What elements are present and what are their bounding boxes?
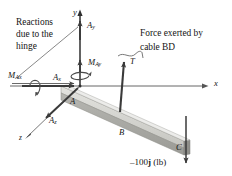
load-label: –100j (lb)	[130, 157, 166, 167]
vector-label-Ax-sub: x	[58, 76, 61, 82]
vector-label-MAx: MAx	[8, 71, 22, 81]
vector-label-Az: Az	[49, 116, 57, 126]
hinge-note-line1: Reactions	[16, 17, 53, 28]
vector-label-Ax: Ax	[53, 73, 61, 83]
hinge-note-line2: due to the	[16, 29, 53, 40]
cable-note-line1: Force exerted by	[140, 28, 203, 39]
cable-note-line2: cable BD	[140, 42, 175, 53]
vector-label-Az-sub: z	[54, 119, 56, 125]
axis-label-z: z	[19, 134, 22, 142]
axis-y	[77, 10, 82, 87]
vector-label-MAx-sub: Ax	[15, 74, 21, 80]
point-label-B: B	[119, 128, 124, 138]
vector-label-Ay-sub: y	[92, 24, 95, 30]
vector-label-T: T	[130, 57, 135, 67]
vector-label-MAy-sub: Ay	[95, 61, 101, 67]
load-units: (lb)	[153, 157, 166, 167]
point-A-marker	[79, 85, 82, 88]
load-magnitude: –100	[130, 157, 148, 167]
axis-label-x: x	[214, 79, 218, 89]
free-body-diagram-figure: Reactions due to the hinge Force exerted…	[0, 0, 232, 176]
point-label-A: A	[70, 97, 75, 107]
vector-T-arrow	[120, 62, 124, 112]
beam-body	[61, 85, 190, 155]
axis-label-y: y	[73, 8, 77, 18]
vector-label-MAy: MAy	[88, 58, 101, 68]
hinge-note-line3: hinge	[16, 41, 37, 52]
vector-label-Ay: Ay	[87, 21, 95, 31]
point-label-C: C	[176, 143, 182, 153]
cable-note-line2-text: cable BD	[140, 42, 175, 52]
